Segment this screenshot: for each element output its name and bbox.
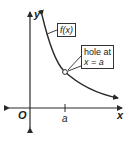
hole-label-leader-1 [68,56,81,70]
function-label-leader [47,30,57,34]
tick-label-a: a [62,114,68,124]
hole-label-line2: x = a [84,57,111,67]
y-axis-label: y [34,9,40,20]
function-label-box: f(x) [57,23,76,37]
hole-marker [63,70,68,75]
hole-label-box: hole at x = a [81,45,114,69]
hole-label-line1: hole at [84,47,111,57]
x-axis-label: x [117,110,123,121]
origin-label: O [18,110,27,121]
function-label: f(x) [60,25,73,35]
